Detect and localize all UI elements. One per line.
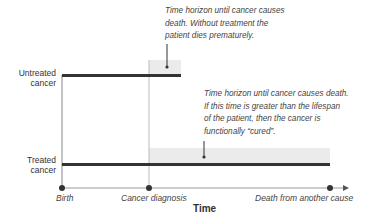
annotation-line: If this time is greater than the lifespa… [204,101,349,114]
row-label-line: cancer [0,165,56,175]
axis-title: Time [193,203,216,214]
tick-label-diagnosis: Cancer diagnosis [121,193,187,203]
annotation-line: Time horizon until cancer causes [165,5,285,18]
treated-shaded-horizon [149,148,330,164]
row-label-untreated: Untreated cancer [0,68,56,88]
tick-label-birth: Birth [56,193,73,203]
annotation-line: patient dies prematurely. [165,30,285,43]
tick-label-death: Death from another cause [255,193,353,203]
annotation-line: functionally “cured”. [204,126,349,139]
row-label-line: cancer [0,78,56,88]
row-label-line: Untreated [0,68,56,78]
annotation-1-pointer-dot [165,65,168,68]
untreated-shaded-horizon [149,60,181,75]
annotation-line: of the patient, then the cancer is [204,113,349,126]
annotation-untreated: Time horizon until cancer causes death. … [165,5,285,43]
diagnosis-dot [146,185,152,191]
annotation-line: death. Without treatment the [165,18,285,31]
birth-dot [59,185,65,191]
row-label-line: Treated [0,155,56,165]
axis-arrow-icon [343,185,349,191]
row-label-treated: Treated cancer [0,155,56,175]
annotation-2-pointer-dot [202,155,205,158]
death-dot [327,185,333,191]
annotation-treated: Time horizon until cancer causes death. … [204,88,349,138]
annotation-line: Time horizon until cancer causes death. [204,88,349,101]
